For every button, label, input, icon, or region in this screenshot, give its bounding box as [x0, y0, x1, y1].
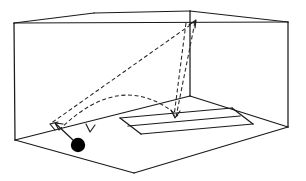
squash-court-trajectory-figure: Squash court ball trajectory diagram Thr…: [0, 0, 306, 181]
figure-background: [0, 0, 306, 181]
ball: [71, 138, 85, 152]
